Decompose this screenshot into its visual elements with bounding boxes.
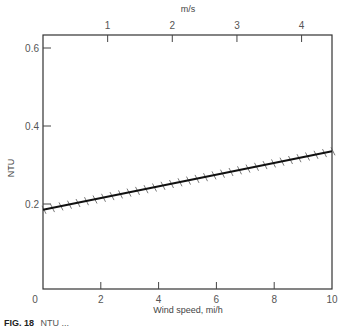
- y-axis-title: NTU: [6, 159, 16, 178]
- y-tick-label: 0.6: [25, 43, 39, 54]
- x-tick-label: 8: [271, 294, 277, 305]
- x-tick-label: 4: [156, 294, 162, 305]
- chart: 0.20.40.602468101234 m/s NTU Wind speed,…: [0, 0, 346, 327]
- top-axis-tick-label: 1: [105, 20, 111, 31]
- data-line: [43, 151, 332, 210]
- top-axis-title: m/s: [181, 4, 196, 14]
- axes-frame: [43, 35, 332, 289]
- x-tick-label: 10: [326, 294, 338, 305]
- top-axis-tick-label: 2: [170, 20, 176, 31]
- caption-text: NTU ...: [41, 318, 70, 327]
- x-tick-label: 2: [98, 294, 104, 305]
- plot-area: 0.20.40.602468101234: [25, 20, 338, 305]
- x-tick-label: 6: [214, 294, 220, 305]
- x-tick-label: 0: [32, 294, 38, 305]
- figure-caption: FIG. 18 NTU ...: [4, 318, 69, 327]
- caption-label: FIG. 18: [4, 318, 34, 327]
- top-axis-tick-label: 4: [299, 20, 305, 31]
- y-tick-label: 0.2: [25, 199, 39, 210]
- x-axis-title: Wind speed, mi/h: [153, 305, 223, 315]
- y-tick-label: 0.4: [25, 121, 39, 132]
- top-axis-tick-label: 3: [234, 20, 240, 31]
